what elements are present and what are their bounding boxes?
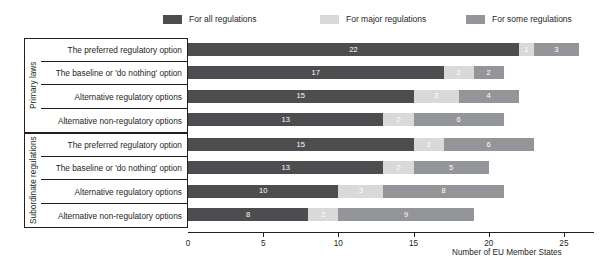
bar-segment: 4: [459, 90, 519, 103]
chart-legend: For all regulations For major regulation…: [0, 10, 602, 28]
bar-segment: 10: [188, 185, 338, 198]
bar-segment: 22: [188, 43, 519, 56]
x-tick: [338, 233, 339, 237]
y-category-4: The preferred regulatory option: [41, 134, 187, 157]
x-tick: [263, 233, 264, 237]
bar-segment: 3: [414, 90, 459, 103]
bar-segment: 2: [308, 208, 338, 221]
bar-row: 1722: [188, 66, 594, 79]
bar-segment: 1: [519, 43, 534, 56]
bar-segment: 13: [188, 113, 383, 126]
bar-segment: 5: [414, 161, 489, 174]
x-tick-label: 0: [186, 239, 191, 248]
bar-row: 1526: [188, 138, 594, 151]
bar-segment: 13: [188, 161, 383, 174]
bar-row: 1038: [188, 185, 594, 198]
x-axis-line: [188, 232, 594, 233]
bar-row: 2213: [188, 43, 594, 56]
bar-segment: 6: [414, 113, 504, 126]
x-tick: [564, 233, 565, 237]
legend-swatch-major: [320, 15, 339, 24]
bar-row: 1534: [188, 90, 594, 103]
legend-item-major: For major regulations: [320, 10, 426, 28]
bar-segment: 8: [383, 185, 503, 198]
y-category-5: The baseline or 'do nothing' option: [41, 157, 187, 180]
y-category-2: Alternative regulatory options: [41, 85, 187, 109]
x-tick: [489, 233, 490, 237]
bar-segment: 2: [474, 66, 504, 79]
bar-segment: 2: [383, 113, 413, 126]
bar-segment: 8: [188, 208, 308, 221]
bar-segment: 15: [188, 138, 414, 151]
bar-segment: 15: [188, 90, 414, 103]
y-group-primary-laws: Primary laws The preferred regulatory op…: [24, 38, 188, 133]
bar-row: 829: [188, 208, 594, 221]
bar-segment: 6: [444, 138, 534, 151]
bar-segment: 3: [338, 185, 383, 198]
x-tick-label: 5: [261, 239, 266, 248]
x-tick-label: 10: [334, 239, 343, 248]
legend-swatch-all: [163, 15, 182, 24]
y-group-subordinate-regulations: Subordinate regulations The preferred re…: [24, 133, 188, 228]
bar-row: 1326: [188, 113, 594, 126]
legend-label-some: For some regulations: [492, 15, 572, 24]
bar-segment: 2: [444, 66, 474, 79]
bar-segment: 9: [338, 208, 473, 221]
stacked-bar-chart: For all regulations For major regulation…: [0, 0, 602, 265]
legend-label-all: For all regulations: [189, 15, 257, 24]
y-category-3: Alternative non-regulatory options: [41, 109, 187, 132]
y-category-1: The baseline or 'do nothing' option: [41, 62, 187, 85]
bar-segment: 17: [188, 66, 444, 79]
x-tick: [414, 233, 415, 237]
plot-area: 2213172215341326152613251038829: [188, 38, 594, 228]
y-category-6: Alternative regulatory options: [41, 180, 187, 204]
legend-swatch-some: [466, 15, 485, 24]
x-tick-label: 20: [484, 239, 493, 248]
x-tick-label: 15: [409, 239, 418, 248]
bar-segment: 2: [414, 138, 444, 151]
y-category-0: The preferred regulatory option: [41, 39, 187, 62]
bar-row: 1325: [188, 161, 594, 174]
y-category-7: Alternative non-regulatory options: [41, 204, 187, 227]
x-axis-title: Number of EU Member States: [452, 248, 562, 257]
y-group-title-subordinate-regulations: Subordinate regulations: [25, 134, 41, 227]
x-tick-label: 25: [559, 239, 568, 248]
legend-item-all: For all regulations: [163, 10, 257, 28]
legend-label-major: For major regulations: [346, 15, 426, 24]
y-group-title-primary-laws: Primary laws: [25, 39, 41, 132]
legend-item-some: For some regulations: [466, 10, 572, 28]
bar-segment: 2: [383, 161, 413, 174]
bar-segment: 3: [534, 43, 579, 56]
